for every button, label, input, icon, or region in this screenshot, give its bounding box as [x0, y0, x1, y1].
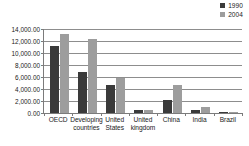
bar-group — [130, 29, 158, 113]
bar-2004-developing-countries — [88, 39, 97, 113]
bar-group — [102, 29, 130, 113]
y-axis-tick-label: 12,000.00 — [12, 38, 40, 45]
y-axis-tick — [41, 89, 44, 90]
y-axis-tick-label: 2,000.00 — [15, 98, 40, 105]
y-axis-tick-label: 4,000.00 — [15, 86, 40, 93]
bar-2004-united-kingdom — [144, 110, 153, 113]
bar-chart: 1990 2004 0.002,000.004,000.006,000.008,… — [0, 0, 249, 146]
bar-1990-india — [191, 110, 200, 113]
legend-label-1990: 1990 — [228, 2, 243, 9]
bar-1990-brazil — [219, 112, 228, 113]
x-axis-label-brazil: Brazil — [210, 116, 246, 124]
bars-layer — [45, 29, 243, 113]
y-axis-tick — [41, 53, 44, 54]
legend-item-1990: 1990 — [220, 2, 243, 9]
bar-1990-oecd — [50, 46, 59, 113]
bar-2004-oecd — [60, 34, 69, 114]
x-axis-labels: OECDDeveloping countriesUnited StatesUni… — [44, 115, 242, 145]
legend-swatch-icon-2004 — [220, 12, 225, 17]
y-axis-tick-label: 6,000.00 — [15, 74, 40, 81]
bar-group — [215, 29, 243, 113]
legend-label-2004: 2004 — [228, 11, 243, 18]
y-axis-tick-label: 8,000.00 — [15, 62, 40, 69]
bar-2004-china — [173, 85, 182, 113]
y-axis-tick-label: 10,000.00 — [12, 50, 40, 57]
bar-2004-india — [201, 107, 210, 113]
y-axis-tick — [41, 101, 44, 102]
bar-1990-united-kingdom — [134, 110, 143, 113]
bar-group — [158, 29, 186, 113]
bar-group — [45, 29, 73, 113]
legend-item-2004: 2004 — [220, 11, 243, 18]
x-axis-tick — [44, 113, 45, 116]
bar-2004-brazil — [229, 112, 238, 114]
y-axis-tick — [41, 41, 44, 42]
bar-2004-united-states — [116, 78, 125, 113]
bar-group — [73, 29, 101, 113]
y-axis-tick-label: 14,000.00 — [12, 26, 40, 33]
y-axis-tick — [41, 77, 44, 78]
legend-swatch-icon-1990 — [220, 3, 225, 8]
bar-1990-china — [163, 100, 172, 113]
chart-legend: 1990 2004 — [220, 2, 243, 18]
y-axis-tick — [41, 29, 44, 30]
y-axis-tick — [41, 65, 44, 66]
plot-area: 0.002,000.004,000.006,000.008,000.0010,0… — [43, 29, 242, 114]
bar-1990-united-states — [106, 85, 115, 113]
bar-group — [186, 29, 214, 113]
y-axis-tick-label: 0.00 — [28, 110, 40, 117]
bar-1990-developing-countries — [78, 72, 87, 113]
